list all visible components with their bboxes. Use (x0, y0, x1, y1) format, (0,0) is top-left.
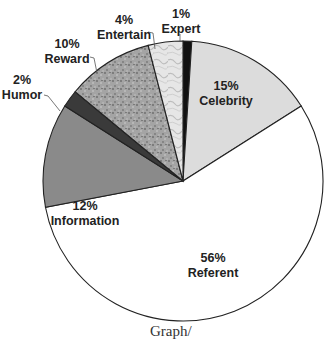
leader-line (44, 95, 60, 111)
chart-caption: Graph/ (150, 323, 192, 340)
slice-percent-label: 15% (213, 79, 238, 93)
slice-percent-label: 10% (54, 37, 79, 51)
slice-percent-label: 4% (115, 13, 133, 27)
slice-name-label: Information (51, 214, 120, 228)
slice-percent-label: 2% (13, 73, 31, 87)
slice-name-label: Humor (2, 88, 42, 102)
slice-percent-label: 12% (72, 199, 97, 213)
pie-chart: 1%Expert15%Celebrity56%Referent12%Inform… (0, 0, 324, 340)
slice-name-label: Celebrity (199, 94, 253, 108)
slice-name-label: Reward (44, 52, 89, 66)
slice-percent-label: 56% (200, 251, 225, 265)
slice-percent-label: 1% (172, 7, 190, 21)
pie-slices (43, 41, 323, 321)
slice-name-label: Referent (188, 266, 240, 280)
slice-name-label: Expert (162, 22, 202, 36)
slice-name-label: Entertain (97, 28, 151, 42)
